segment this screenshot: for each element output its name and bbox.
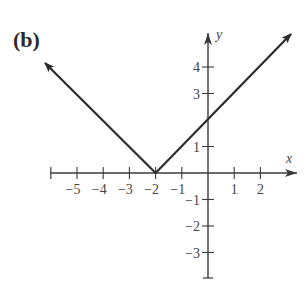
x-tick-label: −3	[118, 182, 133, 197]
x-axis-label: x	[285, 151, 293, 166]
y-tick-label: 4	[193, 60, 200, 75]
y-tick-label: 1	[193, 140, 200, 155]
y-tick-label: −1	[185, 193, 200, 208]
plot-area: xy −5−4−3−2−112431−1−2−3	[0, 0, 305, 288]
x-tick-label: −4	[92, 182, 107, 197]
function-graph	[45, 34, 291, 173]
x-tick-label: 1	[231, 182, 238, 197]
y-axis-label: y	[214, 27, 223, 42]
x-tick-label: −1	[170, 182, 185, 197]
ticks: −5−4−3−2−112431−1−2−3	[66, 60, 264, 261]
y-tick-label: 3	[193, 87, 200, 102]
y-tick-label: −3	[185, 246, 200, 261]
left-branch	[45, 63, 156, 173]
x-tick-label: −5	[66, 182, 81, 197]
right-branch	[156, 34, 291, 173]
x-tick-label: −2	[144, 182, 159, 197]
x-tick-label: 2	[257, 182, 264, 197]
y-tick-label: −2	[185, 219, 200, 234]
